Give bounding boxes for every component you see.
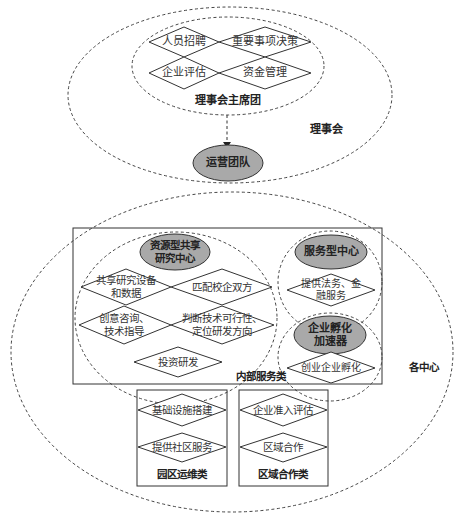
incubator-title-line1: 企业孵化 bbox=[308, 322, 352, 335]
centers-ellipse bbox=[11, 192, 453, 512]
item-community-service: 提供社区服务 bbox=[152, 441, 212, 454]
diagram-canvas bbox=[0, 0, 464, 523]
item-shared-equipment-line2: 和数据 bbox=[96, 287, 156, 300]
item-infrastructure: 基础设施搭建 bbox=[152, 404, 212, 417]
resource-center-title-line2: 研究中心 bbox=[150, 252, 200, 265]
item-feasibility-line1: 判断技术可行性、 bbox=[182, 312, 262, 325]
resource-center-title: 资源型共享 研究中心 bbox=[150, 239, 200, 264]
item-regional-coop: 区域合作 bbox=[263, 441, 303, 454]
operations-title: 运营团队 bbox=[206, 156, 250, 169]
item-consulting: 创意咨询、 技术指导 bbox=[99, 312, 149, 337]
item-recruitment: 人员招聘 bbox=[162, 35, 206, 48]
presidium-title: 理事会主席团 bbox=[195, 94, 261, 107]
item-legal-finance: 提供法务、金 融服务 bbox=[301, 278, 361, 302]
item-feasibility: 判断技术可行性、 定位研发方向 bbox=[182, 312, 262, 337]
incubator-title: 企业孵化 加速器 bbox=[308, 322, 352, 348]
board-title: 理事会 bbox=[310, 123, 343, 136]
item-enterprise-eval: 企业评估 bbox=[162, 66, 206, 79]
item-shared-equipment: 共享研究设备 和数据 bbox=[96, 274, 156, 299]
item-legal-finance-line2: 融服务 bbox=[301, 290, 361, 302]
centers-title: 各中心 bbox=[409, 361, 439, 374]
item-shared-equipment-line1: 共享研究设备 bbox=[96, 274, 156, 287]
item-major-decisions: 重要事项决策 bbox=[232, 35, 298, 48]
item-access-eval: 企业准入评估 bbox=[253, 404, 313, 417]
incubator-title-line2: 加速器 bbox=[308, 335, 352, 348]
item-startup-incubation: 创业企业孵化 bbox=[301, 362, 361, 374]
item-match: 匹配校企双方 bbox=[192, 281, 252, 294]
item-legal-finance-line1: 提供法务、金 bbox=[301, 278, 361, 290]
item-invest-rd: 投资研发 bbox=[158, 356, 198, 369]
service-center-title: 服务型中心 bbox=[304, 245, 359, 258]
item-fund-mgmt: 资金管理 bbox=[243, 66, 287, 79]
regional-title: 区域合作类 bbox=[258, 468, 308, 481]
item-consulting-line2: 技术指导 bbox=[99, 325, 149, 338]
park-ops-title: 园区运维类 bbox=[157, 468, 207, 481]
resource-center-title-line1: 资源型共享 bbox=[150, 239, 200, 252]
item-feasibility-line2: 定位研发方向 bbox=[182, 325, 262, 338]
item-consulting-line1: 创意咨询、 bbox=[99, 312, 149, 325]
internal-services-title: 内部服务类 bbox=[236, 370, 286, 383]
